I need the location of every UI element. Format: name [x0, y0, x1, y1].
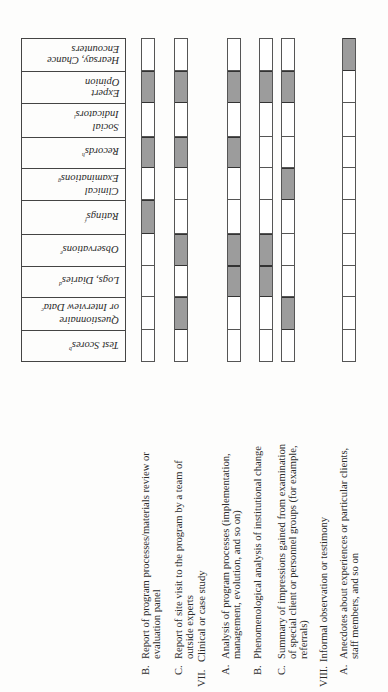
shaded-cell — [175, 297, 187, 330]
item-text-continued: staff members, and so on — [349, 448, 360, 675]
header-cell-clinical: ClinicalExaminationsg — [22, 169, 125, 201]
shaded-cell — [175, 71, 187, 103]
empty-cell — [282, 38, 294, 71]
shaded-cell — [142, 71, 154, 103]
item-viii-a: A.Anecdotes about experiences or particu… — [338, 448, 360, 675]
item-text-continued: management, evolution, and so on) — [231, 453, 242, 675]
item-vii-a: A.Analysis of program processes (impleme… — [220, 453, 242, 675]
empty-cell — [175, 168, 187, 200]
shaded-cell — [175, 234, 187, 266]
header-cell-expert: ExpertOpinion — [22, 72, 125, 104]
header-label: SocialIndicatorsi — [74, 108, 119, 133]
empty-cell — [260, 38, 272, 71]
shaded-cell — [228, 234, 240, 266]
section-heading-viii: VIII.Informal observation or testimony — [318, 517, 329, 687]
empty-cell — [228, 330, 240, 362]
shaded-cell — [282, 71, 294, 103]
empty-cell — [142, 168, 154, 200]
item-text: Report of site visit to the program by a… — [173, 460, 184, 659]
item-text-continued: outside experts — [184, 460, 195, 675]
header-label: Questionnaireor Interview Datac — [41, 302, 119, 327]
item-text: Phenomenological analysis of institution… — [252, 446, 263, 659]
header-label: Logs, Diariesd — [59, 275, 119, 289]
empty-cell — [343, 71, 355, 103]
empty-cell — [343, 330, 355, 362]
shaded-cell — [228, 137, 240, 168]
empty-cell — [142, 103, 154, 137]
rating-strip-vi-b — [141, 38, 155, 362]
empty-cell — [175, 330, 187, 362]
data-source-header-table: Hearsay, ChanceEncountersExpertOpinionSo… — [21, 38, 126, 362]
item-text: Analysis of program processes (implement… — [220, 453, 231, 659]
rating-strip-vii-c — [281, 38, 295, 362]
header-label: ClinicalExaminationsg — [58, 172, 119, 197]
rating-strip-vii-a — [227, 38, 241, 362]
empty-cell — [228, 38, 240, 71]
empty-cell — [343, 266, 355, 297]
item-letter: A. — [338, 659, 349, 675]
empty-cell — [343, 297, 355, 330]
empty-cell — [175, 38, 187, 71]
empty-cell — [175, 200, 187, 234]
header-label: ExpertOpinion — [85, 77, 119, 99]
item-vii-c: C.Summary of impressions gained from exa… — [276, 444, 309, 675]
item-vi-c: C.Report of site visit to the program by… — [173, 460, 195, 675]
empty-cell — [228, 168, 240, 200]
shaded-cell — [228, 266, 240, 297]
item-letter: A. — [220, 659, 231, 675]
empty-cell — [282, 234, 294, 266]
item-text-continued: evaluation panel — [151, 452, 162, 675]
header-cell-hearsay-chance: Hearsay, ChanceEncounters — [22, 39, 125, 72]
empty-cell — [142, 297, 154, 330]
shaded-cell — [260, 266, 272, 297]
empty-cell — [343, 103, 355, 137]
shaded-cell — [343, 38, 355, 71]
item-letter: C. — [276, 659, 287, 675]
item-letter: C. — [173, 659, 184, 675]
empty-cell — [228, 200, 240, 234]
item-text: Anecdotes about experiences or particula… — [338, 448, 349, 659]
section-heading-vii: VII.Clinical or case study — [196, 571, 207, 688]
section-title: Clinical or case study — [196, 571, 207, 663]
shaded-cell — [142, 200, 154, 234]
empty-cell — [260, 137, 272, 168]
empty-cell — [228, 297, 240, 330]
empty-cell — [282, 103, 294, 137]
empty-cell — [142, 266, 154, 297]
empty-cell — [260, 330, 272, 362]
empty-cell — [260, 200, 272, 234]
item-text: Summary of impressions gained from exami… — [276, 444, 287, 659]
empty-cell — [282, 200, 294, 234]
empty-cell — [175, 103, 187, 137]
empty-cell — [343, 200, 355, 234]
header-cell-logs-diaries: Logs, Diariesd — [22, 267, 125, 298]
shaded-cell — [175, 137, 187, 168]
header-label: Test Scoresb — [69, 340, 119, 354]
section-number: VIII. — [318, 662, 329, 687]
item-text-continued: referrals) — [298, 444, 309, 675]
header-label: Recordsh — [82, 146, 119, 160]
empty-cell — [343, 168, 355, 200]
shaded-cell — [282, 168, 294, 200]
item-vi-b: B.Report of program processes/materials … — [140, 452, 162, 675]
empty-cell — [175, 266, 187, 297]
empty-cell — [260, 103, 272, 137]
shaded-cell — [260, 71, 272, 103]
section-title: Informal observation or testimony — [318, 517, 329, 662]
item-vii-b: B.Phenomenological analysis of instituti… — [252, 446, 263, 675]
shaded-cell — [142, 137, 154, 168]
rating-strip-viii-a — [342, 38, 356, 362]
empty-cell — [142, 330, 154, 362]
header-label: Ratingsf — [85, 211, 119, 225]
shaded-cell — [260, 234, 272, 266]
empty-cell — [282, 266, 294, 297]
empty-cell — [343, 137, 355, 168]
header-cell-questionnaire: Questionnaireor Interview Datac — [22, 298, 125, 331]
shaded-cell — [282, 297, 294, 330]
header-cell-social: SocialIndicatorsi — [22, 104, 125, 138]
item-letter: B. — [140, 659, 151, 675]
shaded-cell — [228, 71, 240, 103]
item-letter: B. — [252, 659, 263, 675]
empty-cell — [343, 234, 355, 266]
section-number: VII. — [196, 662, 207, 687]
